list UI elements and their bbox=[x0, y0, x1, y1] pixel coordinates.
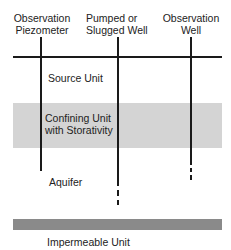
piezometer-label-line1: Observation bbox=[12, 12, 72, 24]
piezometer-label-line2: Piezometer bbox=[12, 24, 72, 36]
observation-well-label-line2: Well bbox=[160, 24, 222, 36]
observation-well-label-line1: Observation bbox=[160, 12, 222, 24]
piezometer-label: Observation Piezometer bbox=[12, 12, 72, 36]
pumped-well-screen-dash bbox=[117, 190, 119, 196]
confining-unit-label-line2: with Storativity bbox=[45, 124, 113, 136]
observation-well-line bbox=[190, 37, 192, 165]
piezometer-line bbox=[40, 37, 42, 171]
source-unit-label: Source Unit bbox=[48, 72, 103, 84]
observation-well-screen-dash bbox=[190, 168, 192, 172]
observation-well-screen-dash bbox=[190, 175, 192, 180]
observation-well-label: Observation Well bbox=[160, 12, 222, 36]
impermeable-unit-label: Impermeable Unit bbox=[47, 236, 130, 248]
aquifer-label: Aquifer bbox=[49, 176, 82, 188]
impermeable-unit-band bbox=[13, 219, 222, 230]
confining-unit-label-line1: Confining Unit bbox=[45, 112, 113, 124]
pumped-well-label: Pumped or Slugged Well bbox=[86, 12, 148, 36]
pumped-well-line bbox=[117, 37, 119, 186]
pumped-well-label-line1: Pumped or bbox=[86, 12, 148, 24]
pumped-well-screen-dash bbox=[117, 200, 119, 205]
confining-unit-label: Confining Unit with Storativity bbox=[45, 112, 113, 136]
pumped-well-label-line2: Slugged Well bbox=[86, 24, 148, 36]
